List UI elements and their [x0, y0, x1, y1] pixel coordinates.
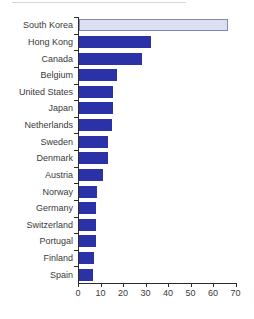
bar-austria: [79, 169, 103, 181]
x-axis-tick-label-20: 20: [112, 288, 134, 298]
category-label-portugal: Portugal: [0, 233, 73, 250]
bar-portugal: [79, 235, 96, 247]
bar-netherlands: [79, 119, 112, 131]
y-axis-tick: [74, 67, 78, 68]
x-axis-tick-60: [213, 284, 214, 287]
y-axis-tick: [74, 266, 78, 267]
y-axis-tick: [74, 34, 78, 35]
category-label-united-states: United States: [0, 84, 73, 101]
bar-finland: [79, 252, 94, 264]
category-label-canada: Canada: [0, 50, 73, 67]
x-axis-tick-40: [168, 284, 169, 287]
category-label-germany: Germany: [0, 200, 73, 217]
y-axis-tick: [74, 117, 78, 118]
x-axis-tick-label-50: 50: [180, 288, 202, 298]
category-label-switzerland: Switzerland: [0, 217, 73, 234]
category-label-belgium: Belgium: [0, 67, 73, 84]
x-axis-tick-label-40: 40: [157, 288, 179, 298]
bar-germany: [79, 202, 96, 214]
x-axis-tick-20: [123, 284, 124, 287]
y-axis-tick: [74, 250, 78, 251]
y-axis-tick: [74, 133, 78, 134]
x-axis-tick-label-10: 10: [90, 288, 112, 298]
bar-south-korea: [79, 19, 228, 31]
bar-norway: [79, 186, 97, 198]
x-axis-tick-0: [78, 284, 79, 287]
y-axis-tick: [74, 233, 78, 234]
x-axis-tick-label-70: 70: [225, 288, 247, 298]
category-label-sweden: Sweden: [0, 133, 73, 150]
bar-switzerland: [79, 219, 96, 231]
bar-canada: [79, 53, 142, 65]
x-axis-tick-label-60: 60: [202, 288, 224, 298]
category-label-south-korea: South Korea: [0, 17, 73, 34]
category-label-spain: Spain: [0, 266, 73, 283]
category-label-hong-kong: Hong Kong: [0, 34, 73, 51]
y-axis-tick: [74, 84, 78, 85]
x-axis-tick-label-30: 30: [135, 288, 157, 298]
y-axis-tick: [74, 17, 78, 18]
y-axis-tick: [74, 100, 78, 101]
x-axis-tick-10: [101, 284, 102, 287]
x-axis-tick-70: [236, 284, 237, 287]
bar-hong-kong: [79, 36, 151, 48]
bar-united-states: [79, 86, 113, 98]
category-label-japan: Japan: [0, 100, 73, 117]
bar-chart: South KoreaHong KongCanadaBelgiumUnited …: [0, 0, 254, 319]
y-axis-tick: [74, 217, 78, 218]
y-axis-tick: [74, 150, 78, 151]
bar-spain: [79, 269, 93, 281]
bar-sweden: [79, 136, 108, 148]
x-axis-tick-label-0: 0: [67, 288, 89, 298]
category-label-finland: Finland: [0, 250, 73, 267]
category-label-norway: Norway: [0, 183, 73, 200]
category-label-netherlands: Netherlands: [0, 117, 73, 134]
y-axis-tick: [74, 50, 78, 51]
x-axis-tick-50: [191, 284, 192, 287]
category-label-austria: Austria: [0, 167, 73, 184]
bar-japan: [79, 102, 113, 114]
y-axis-tick: [74, 200, 78, 201]
y-axis-tick: [74, 167, 78, 168]
x-axis-tick-30: [146, 284, 147, 287]
bar-denmark: [79, 152, 108, 164]
top-rule: [12, 2, 186, 3]
category-label-denmark: Denmark: [0, 150, 73, 167]
y-axis-tick: [74, 183, 78, 184]
bar-belgium: [79, 69, 117, 81]
